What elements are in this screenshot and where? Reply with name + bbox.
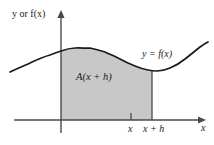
x-plus-h-tick-label: x + h (143, 124, 164, 134)
x-tick-label: x (128, 124, 132, 134)
x-axis-label: x (201, 123, 205, 133)
x-axis-label-text: x (201, 122, 205, 133)
y-axis-arrowhead (57, 10, 64, 18)
curve-label: y = f(x) (142, 49, 172, 59)
area-label-text: A(x + h) (76, 71, 112, 82)
x-tick-label-text: x (128, 123, 132, 134)
curve-label-text: y = f(x) (142, 48, 172, 59)
area-under-curve-diagram: y or f(x) y = f(x) A(x + h) x x + h x (0, 0, 214, 145)
x-plus-h-tick-label-text: x + h (143, 123, 164, 134)
area-label: A(x + h) (76, 72, 112, 83)
shaded-area-region (61, 48, 152, 120)
y-axis-label: y or f(x) (12, 9, 45, 19)
y-axis-label-text: y or f(x) (12, 8, 45, 19)
